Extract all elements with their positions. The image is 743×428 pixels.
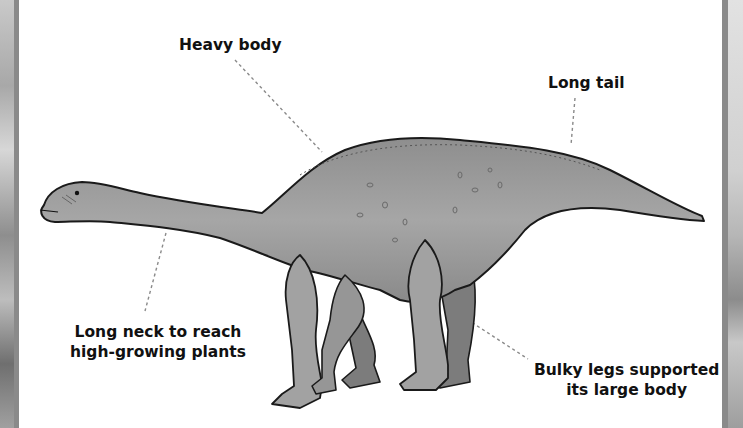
label-long-neck-line2: high-growing plants bbox=[70, 342, 246, 362]
label-bulky-legs-line2: its large body bbox=[534, 380, 719, 400]
dinosaur-diagram: Heavy body Long tail Long neck to reach … bbox=[0, 0, 743, 428]
eye bbox=[75, 191, 79, 195]
label-bulky-legs: Bulky legs supported its large body bbox=[534, 360, 719, 400]
label-heavy-body: Heavy body bbox=[179, 35, 282, 55]
label-long-neck-line1: Long neck to reach bbox=[70, 322, 246, 342]
label-long-neck: Long neck to reach high-growing plants bbox=[70, 322, 246, 362]
leader-line-long-neck bbox=[145, 233, 166, 311]
label-bulky-legs-line1: Bulky legs supported bbox=[534, 360, 719, 380]
label-long-tail: Long tail bbox=[548, 73, 625, 93]
dinosaur-body bbox=[41, 138, 704, 302]
leader-line-heavy-body bbox=[235, 60, 322, 152]
leader-line-long-tail bbox=[571, 98, 575, 145]
